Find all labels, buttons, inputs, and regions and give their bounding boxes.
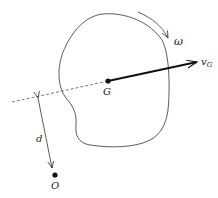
velocity-arrow	[108, 62, 197, 81]
velocity-label: vG	[201, 56, 213, 69]
omega-label: ω	[174, 35, 183, 48]
rigid-body-diagram: ω vG G d O	[0, 0, 218, 198]
origin-label: O	[51, 180, 59, 191]
omega-arc-arrow	[138, 12, 168, 38]
center-of-mass-point	[105, 78, 110, 83]
origin-point	[52, 172, 57, 177]
center-of-mass-label: G	[103, 86, 111, 97]
velocity-label-subscript: G	[207, 61, 213, 69]
distance-label: d	[36, 133, 42, 144]
